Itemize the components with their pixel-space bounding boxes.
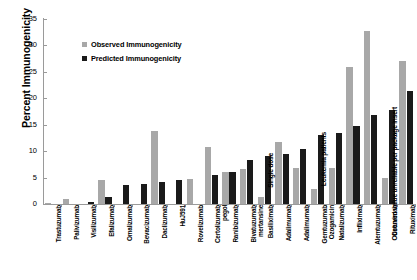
x-label-line1: Bevacizumab — [143, 205, 150, 244]
x-label-line1: Trastuzumab — [55, 205, 62, 242]
y-tick-label-5: 5 — [0, 173, 43, 183]
bar-observed-19 — [382, 178, 388, 204]
y-tick-label-30: 30 — [0, 40, 43, 50]
bar-predicted-14 — [300, 149, 306, 204]
x-tick-label-6: Daclizumab — [162, 205, 169, 239]
x-tick-label-9: Certolizumabpegol — [215, 205, 229, 243]
x-axis-labels: TrastuzumabPalivizumabVisilizumabEfalizu… — [43, 205, 415, 280]
bar-predicted-17 — [353, 126, 359, 204]
y-tick-label-15: 15 — [0, 120, 43, 130]
legend-swatch-observed-icon — [82, 42, 87, 47]
x-label-line1: Adalimumab — [303, 205, 310, 241]
y-tick-label-20: 20 — [0, 93, 43, 103]
x-label-line1: Ranibizumab — [232, 205, 239, 243]
x-label-line1: Visilizumab — [90, 205, 97, 238]
bar-predicted-7 — [176, 180, 182, 204]
legend-label-predicted: Predicted Immunogenicity — [91, 54, 181, 63]
x-tick-label-20: Rituximab — [410, 205, 417, 234]
bar-observed-3 — [98, 180, 104, 204]
x-label-line1: HuJ591 — [179, 205, 186, 227]
bar-observed-8 — [187, 179, 193, 204]
bar-predicted-18 — [371, 115, 377, 204]
bar-observed-12 — [258, 197, 264, 204]
y-tick-label-10: 10 — [0, 146, 43, 156]
bar-predicted-9 — [212, 175, 218, 204]
bar-predicted-2 — [88, 202, 94, 204]
x-tick-label-11: Bivatuzumabmertansine — [251, 205, 265, 243]
bar-predicted-10 — [229, 172, 235, 204]
bar-observed-18 — [364, 31, 370, 204]
y-tick-label-0: 0 — [0, 199, 43, 209]
x-label-line1: Gemtuzumab — [321, 205, 328, 243]
x-label-line1: Palivizumab — [73, 205, 80, 240]
bar-observed-14 — [293, 168, 299, 204]
x-label-line1: Infliximab — [356, 205, 363, 233]
bar-observed-13 — [275, 142, 281, 204]
x-label-line1: Basiliximab — [267, 205, 274, 238]
x-tick-label-18: Alemtuzumab — [375, 205, 382, 245]
chart-legend: Observed Immunogenicity Predicted Immuno… — [82, 40, 182, 68]
bar-predicted-4 — [123, 185, 129, 204]
x-tick-label-3: Efalizumab — [109, 205, 116, 237]
x-label-line1: Omalizumab — [126, 205, 133, 241]
x-tick-label-4: Omalizumab — [127, 205, 134, 241]
x-tick-label-8: Rovelizumab — [198, 205, 205, 242]
legend-swatch-predicted-icon — [82, 56, 87, 61]
annotation-0: Single dose — [267, 153, 274, 188]
x-tick-label-13: Adalimumab — [286, 205, 293, 241]
annotation-2: Observed value unreliable per package in… — [391, 107, 398, 240]
immunogenicity-bar-chart: Percent Immunogenicity 05101520253035 Tr… — [0, 0, 417, 280]
legend-label-observed: Observed Immunogenicity — [91, 40, 182, 49]
legend-item-observed: Observed Immunogenicity — [82, 40, 182, 49]
y-tick-label-25: 25 — [0, 67, 43, 77]
x-label-line2: Ozogamicin — [328, 205, 335, 243]
x-label-line1: Bivatuzumab — [250, 205, 257, 243]
x-tick-label-7: HuJ591 — [180, 205, 187, 227]
bar-predicted-16 — [336, 133, 342, 204]
bar-predicted-13 — [283, 154, 289, 204]
bar-predicted-3 — [105, 197, 111, 204]
bar-observed-6 — [151, 131, 157, 204]
annotation-1: Leukemia patients — [320, 132, 327, 186]
x-tick-label-5: Bevacizumab — [144, 205, 151, 244]
bar-observed-17 — [346, 67, 352, 204]
bar-predicted-20 — [407, 91, 413, 204]
y-tick-label-35: 35 — [0, 14, 43, 24]
x-label-line1: Rituximab — [409, 205, 416, 234]
x-tick-label-15: GemtuzumabOzogamicin — [322, 205, 336, 243]
x-label-line1: Alemtuzumab — [374, 205, 381, 245]
bar-observed-10 — [222, 172, 228, 204]
bar-observed-9 — [205, 147, 211, 204]
x-tick-label-10: Ranibizumab — [233, 205, 240, 243]
x-tick-label-0: Trastuzumab — [56, 205, 63, 242]
bar-predicted-11 — [247, 160, 253, 204]
x-tick-label-1: Palivizumab — [74, 205, 81, 240]
x-label-line2: mertansine — [258, 205, 265, 243]
x-tick-label-16: Natalizumab — [339, 205, 346, 240]
x-label-line1: Daclizumab — [161, 205, 168, 239]
bar-predicted-6 — [159, 182, 165, 204]
bar-observed-20 — [399, 61, 405, 204]
bar-predicted-5 — [141, 184, 147, 204]
bar-observed-11 — [240, 169, 246, 204]
bar-observed-15 — [311, 189, 317, 204]
bar-observed-0 — [45, 203, 51, 204]
x-label-line2: pegol — [222, 205, 229, 243]
x-tick-label-2: Visilizumab — [91, 205, 98, 238]
x-tick-label-12: Basiliximab — [268, 205, 275, 238]
bar-observed-1 — [63, 199, 69, 204]
x-label-line1: Natalizumab — [338, 205, 345, 240]
x-label-line1: Rovelizumab — [197, 205, 204, 242]
bar-observed-16 — [329, 168, 335, 204]
x-tick-label-17: Infliximab — [357, 205, 364, 233]
x-label-line1: Adalimumab — [285, 205, 292, 241]
x-tick-label-14: Adalimumab — [304, 205, 311, 241]
legend-item-predicted: Predicted Immunogenicity — [82, 54, 182, 63]
x-label-line1: Efalizumab — [108, 205, 115, 237]
